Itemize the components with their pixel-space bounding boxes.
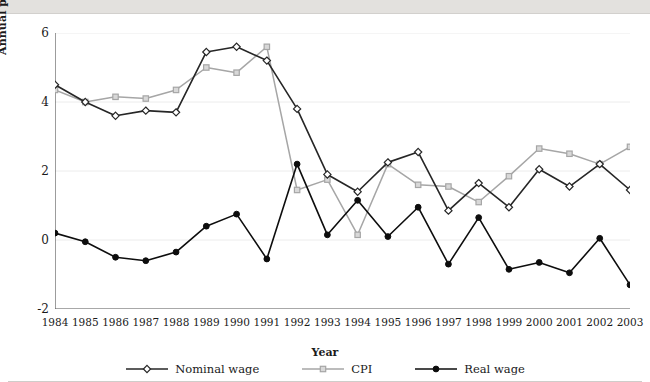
- data-point-marker: [385, 234, 391, 240]
- data-point-marker: [234, 70, 239, 75]
- legend-label: Nominal wage: [175, 362, 259, 376]
- data-point-marker: [173, 249, 179, 255]
- data-point-marker: [355, 197, 361, 203]
- data-point-marker: [264, 256, 270, 262]
- filled-circle-line-icon: [414, 363, 458, 375]
- data-point-marker: [627, 282, 630, 288]
- x-tick-label: 1993: [314, 316, 341, 328]
- x-tick-label: 1987: [132, 316, 159, 328]
- x-tick-label: 2002: [586, 316, 613, 328]
- cut-off-title-band: [0, 0, 650, 14]
- x-tick-label: 1985: [72, 316, 99, 328]
- data-point-marker: [433, 366, 439, 372]
- data-point-marker: [113, 254, 119, 260]
- data-point-marker: [476, 199, 481, 204]
- x-axis-label: Year: [0, 346, 650, 359]
- x-tick-label: 1989: [193, 316, 220, 328]
- x-tick-label: 1991: [253, 316, 280, 328]
- data-point-marker: [112, 112, 119, 119]
- legend-item-cpi[interactable]: CPI: [301, 362, 372, 376]
- open-square-line-icon: [301, 363, 345, 375]
- x-tick-label: 1988: [163, 316, 190, 328]
- data-point-marker: [294, 161, 300, 167]
- series-line-cpi: [55, 47, 630, 235]
- legend-item-real-wage[interactable]: Real wage: [414, 362, 525, 376]
- x-tick-label: 1999: [496, 316, 523, 328]
- data-point-marker: [536, 260, 542, 266]
- y-tick-label: 4: [41, 95, 49, 109]
- data-point-marker: [567, 151, 572, 156]
- chart-figure: Annual percentage change -20246 19841985…: [0, 13, 650, 369]
- legend-label: CPI: [351, 362, 372, 376]
- data-point-marker: [415, 204, 421, 210]
- x-tick-label: 1994: [344, 316, 371, 328]
- legend-label: Real wage: [464, 362, 525, 376]
- open-diamond-line-icon: [125, 363, 169, 375]
- data-point-marker: [415, 148, 422, 155]
- data-point-marker: [476, 215, 482, 221]
- data-point-marker: [321, 366, 326, 371]
- x-tick-label: 1992: [284, 316, 311, 328]
- data-point-marker: [143, 96, 148, 101]
- y-tick-label: 0: [41, 233, 49, 247]
- x-tick-label: 1986: [102, 316, 129, 328]
- y-tick-label: -2: [37, 302, 49, 316]
- y-tick-label: 2: [41, 164, 49, 178]
- data-point-marker: [144, 365, 151, 372]
- data-point-marker: [203, 48, 210, 55]
- x-tick-label: 1997: [435, 316, 462, 328]
- data-point-marker: [142, 107, 149, 114]
- x-tick-label: 1984: [42, 316, 69, 328]
- x-tick-label: 1990: [223, 316, 250, 328]
- x-tick-label: 1998: [465, 316, 492, 328]
- data-point-marker: [415, 182, 420, 187]
- data-point-marker: [143, 258, 149, 264]
- legend-item-nominal-wage[interactable]: Nominal wage: [125, 362, 259, 376]
- series-line-nominal-wage: [55, 47, 630, 211]
- data-point-marker: [204, 65, 209, 70]
- data-point-marker: [537, 146, 542, 151]
- chart-legend: Nominal wageCPIReal wage: [0, 362, 650, 376]
- data-point-marker: [506, 173, 511, 178]
- data-point-marker: [172, 109, 179, 116]
- data-point-marker: [294, 105, 301, 112]
- data-point-marker: [233, 43, 240, 50]
- line-chart-canvas: [55, 33, 630, 309]
- y-axis-label: Annual percentage change: [0, 0, 9, 55]
- x-tick-label: 1995: [375, 316, 402, 328]
- data-point-marker: [446, 184, 451, 189]
- x-tick-label: 2000: [526, 316, 553, 328]
- data-point-marker: [567, 270, 573, 276]
- data-point-marker: [264, 44, 269, 49]
- data-point-marker: [55, 230, 58, 236]
- data-point-marker: [203, 223, 209, 229]
- data-point-marker: [627, 144, 630, 149]
- data-point-marker: [324, 232, 330, 238]
- data-point-marker: [597, 235, 603, 241]
- x-tick-label: 2001: [556, 316, 583, 328]
- plot-area: -20246 198419851986198719881989199019911…: [55, 33, 630, 309]
- y-tick-label: 6: [41, 26, 49, 40]
- data-point-marker: [355, 232, 360, 237]
- data-point-marker: [173, 87, 178, 92]
- x-tick-label: 1996: [405, 316, 432, 328]
- data-point-marker: [446, 261, 452, 267]
- data-point-marker: [506, 266, 512, 272]
- data-point-marker: [294, 187, 299, 192]
- x-tick-label: 2003: [617, 316, 644, 328]
- data-point-marker: [234, 211, 240, 217]
- data-point-marker: [82, 239, 88, 245]
- data-point-marker: [113, 94, 118, 99]
